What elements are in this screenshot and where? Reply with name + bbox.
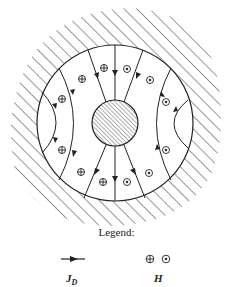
legend-h-label: H <box>154 272 163 284</box>
legend-h-symbols-icon <box>146 255 170 263</box>
legend-jd-label: JD <box>66 272 77 287</box>
field-diagram <box>0 0 233 287</box>
legend-jd-label-sub: D <box>72 278 78 287</box>
legend-jd-arrow-icon <box>61 256 85 262</box>
legend-title: Legend: <box>0 226 233 238</box>
inner-conductor <box>92 100 138 146</box>
